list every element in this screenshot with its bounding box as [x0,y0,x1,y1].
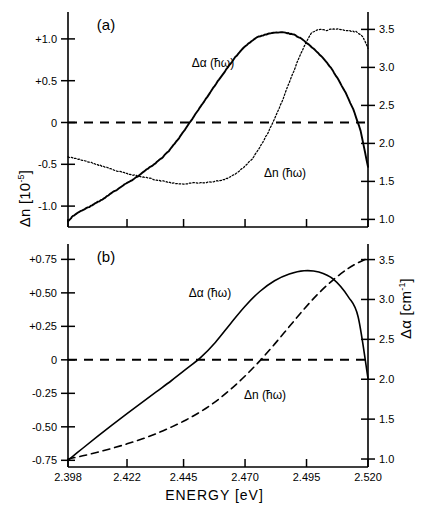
x-tick-label: 2.520 [354,471,382,483]
y-tick-label-right: 2.5 [379,99,394,111]
y-tick-label-right: 2.0 [379,373,394,385]
y-tick-label-left: +1.0 [35,33,57,45]
x-axis-label: ENERGY [eV] [0,487,429,503]
curve-label-delta-n-panel-a: Δn (ħω) [264,166,306,180]
y-tick-label-right: 2.5 [379,333,394,345]
panel-tag: (a) [97,16,115,33]
y-tick-label-left: -0.25 [32,387,57,399]
y-axis-label-left-text: Δn [10 [16,183,33,228]
x-tick-label: 2.398 [54,471,82,483]
y-axis-label-left: Δn [10-5] [16,139,33,259]
y-tick-label-left: -1.0 [38,200,57,212]
y-axis-label-right-exponent: -1 [397,282,407,290]
y-tick-label-left: +0.5 [35,75,57,87]
y-tick-label-left: 0 [51,117,57,129]
y-tick-label-right: 3.5 [379,254,394,266]
curve-label-delta-n-panel-b: Δn (ħω) [244,388,286,402]
y-axis-label-right-text: Δα [cm [397,291,414,339]
y-axis-label-left-exponent: -5 [16,174,26,182]
y-tick-label-left: +0.50 [29,287,57,299]
x-tick-label: 2.422 [113,471,141,483]
y-tick-label-right: 3.5 [379,23,394,35]
figure-container: +1.0+0.50-0.5-1.03.53.02.52.01.51.0(a)+0… [0,0,429,513]
y-tick-label-left: +0.75 [29,253,57,265]
y-axis-label-left-close: ] [16,170,33,174]
y-tick-label-right: 2.0 [379,137,394,149]
y-tick-label-left: -0.75 [32,454,57,466]
y-tick-label-right: 1.0 [379,453,394,465]
plot-svg: +1.0+0.50-0.5-1.03.53.02.52.01.51.0(a)+0… [0,0,429,513]
y-tick-label-right: 3.0 [379,293,394,305]
panel-tag: (b) [97,248,115,265]
y-tick-label-left: -0.5 [38,158,57,170]
y-tick-label-left: 0 [51,354,57,366]
curve-label-delta-alpha-panel-b: Δα (ħω) [189,286,231,300]
y-tick-label-left: -0.50 [32,421,57,433]
y-axis-label-right: Δα [cm-1] [397,249,414,369]
curve-delta-n [68,29,368,184]
curve-label-delta-alpha-panel-a: Δα (ħω) [192,56,234,70]
y-tick-label-right: 3.0 [379,61,394,73]
y-tick-label-right: 1.5 [379,175,394,187]
y-tick-label-left: +0.25 [29,320,57,332]
y-tick-label-right: 1.5 [379,413,394,425]
y-axis-label-right-close: ] [397,278,414,282]
x-tick-label: 2.495 [293,471,321,483]
x-tick-label: 2.445 [170,471,198,483]
y-tick-label-right: 1.0 [379,213,394,225]
x-tick-label: 2.470 [231,471,259,483]
